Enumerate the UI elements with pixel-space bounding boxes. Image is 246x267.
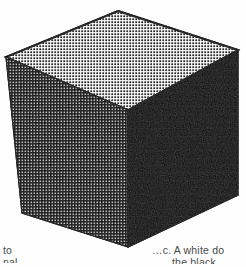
caption-right-line-2: the black (152, 257, 224, 264)
caption-left-line-2: nal (3, 257, 18, 263)
caption-right-line-1: …c. A white do (152, 245, 224, 257)
figure-stage: to nal …c. A white do the black (0, 0, 246, 267)
caption-fragment-right: …c. A white do the black (152, 245, 224, 264)
caption-left-line-1: to (3, 245, 18, 257)
caption-fragment-left: to nal (3, 245, 18, 263)
halftone-cube-figure (0, 0, 246, 267)
